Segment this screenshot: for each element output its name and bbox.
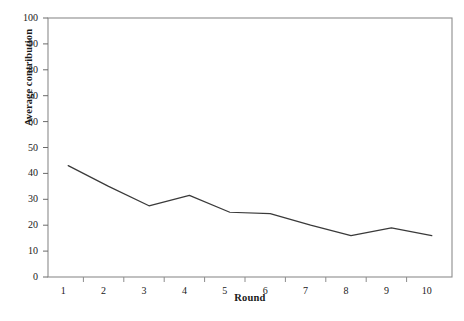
plot-canvas [0, 0, 464, 321]
y-tick-label-20: 20 [2, 220, 38, 230]
x-axis-title: Round [48, 292, 452, 303]
y-tick-label-40: 40 [2, 168, 38, 178]
y-tick-label-50: 50 [2, 143, 38, 153]
y-tick-label-30: 30 [2, 194, 38, 204]
chart-figure: Average contribution [0, 0, 464, 321]
y-tick-label-10: 10 [2, 246, 38, 256]
y-tick-label-70: 70 [2, 91, 38, 101]
y-tick-label-100: 100 [2, 13, 38, 23]
x-axis-ticks [83, 277, 406, 282]
plot-background [48, 18, 452, 277]
y-tick-label-90: 90 [2, 39, 38, 49]
y-tick-label-0: 0 [2, 272, 38, 282]
y-tick-label-80: 80 [2, 65, 38, 75]
y-axis-ticks [43, 18, 48, 277]
y-tick-label-60: 60 [2, 117, 38, 127]
